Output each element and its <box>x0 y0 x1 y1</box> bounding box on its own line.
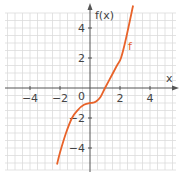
y-axis-arrow-icon <box>88 3 93 10</box>
y-tick-label: 4 <box>78 22 85 35</box>
curve-label: f <box>128 40 133 53</box>
x-tick-label: 4 <box>147 92 154 105</box>
x-tick-label: 2 <box>117 92 124 105</box>
function-graph: −4 −2 2 4 0 4 2 −2 −4 f(x) x f <box>0 0 181 175</box>
x-tick-label: −4 <box>22 92 38 105</box>
y-axis-title: f(x) <box>95 9 114 22</box>
y-tick-label: 2 <box>78 52 85 65</box>
x-axis-title: x <box>166 72 173 85</box>
origin-label: 0 <box>78 90 85 103</box>
x-axis-arrow-icon <box>172 86 179 91</box>
x-tick-label: −2 <box>52 92 68 105</box>
y-tick-label: −4 <box>69 142 85 155</box>
